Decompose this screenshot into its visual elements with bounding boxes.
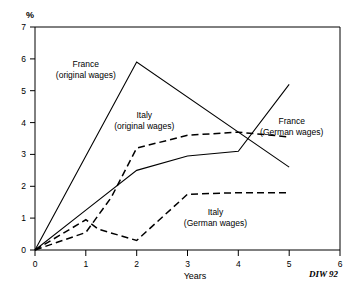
y-tick-label: 4 [21,118,26,128]
series-italy-german-wages [35,193,289,250]
x-axis-ticks [35,250,340,256]
annotation-label-line1: Italy [136,110,152,120]
annotation-label-line1: Italy [208,207,224,217]
series-italy-original-wages [35,132,289,250]
x-tick-label: 2 [134,259,139,269]
x-tick-label: 6 [338,259,343,269]
y-tick-label: 3 [21,149,26,159]
series-france-original-wages [35,62,289,250]
series-group [35,62,289,250]
y-axis-tick-labels: 0 1 2 3 4 5 6 7 [21,22,26,255]
annotation-label-line2: (original wages) [114,121,174,131]
chart-svg: 0 1 2 3 4 5 6 7 % 0 1 2 3 4 5 6 [0,0,361,285]
y-tick-label: 0 [21,245,26,255]
x-tick-label: 4 [236,259,241,269]
x-axis-title: Years [184,271,207,281]
series-france-german-wages [35,84,289,250]
y-axis-ticks [30,27,35,250]
annotation-label-line2: (German wages) [184,218,247,228]
y-tick-label: 7 [21,22,26,32]
x-axis-tick-labels: 0 1 2 3 4 5 6 [33,259,343,269]
y-axis-unit-label: % [26,10,34,20]
annotation-label-line1: France [278,116,305,126]
y-tick-label: 5 [21,86,26,96]
annotation-france-german: France (German wages) [260,116,323,137]
annotation-france-original: France (original wages) [56,59,116,80]
x-tick-label: 5 [287,259,292,269]
annotation-label-line2: (German wages) [260,127,323,137]
x-tick-label: 3 [185,259,190,269]
annotation-label-line2: (original wages) [56,70,116,80]
wage-effects-line-chart: 0 1 2 3 4 5 6 7 % 0 1 2 3 4 5 6 [0,0,361,285]
source-credit: DIW 92 [308,269,339,279]
x-tick-label: 0 [33,259,38,269]
y-tick-label: 1 [21,213,26,223]
y-tick-label: 6 [21,54,26,64]
y-tick-label: 2 [21,181,26,191]
annotation-label-line1: France [73,59,100,69]
annotation-italy-german: Italy (German wages) [184,207,247,228]
annotation-italy-original: Italy (original wages) [114,110,174,131]
x-tick-label: 1 [83,259,88,269]
